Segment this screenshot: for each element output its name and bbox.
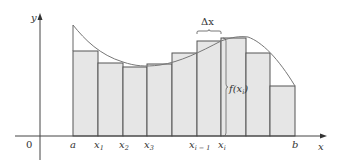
tick-label-x3: x3 bbox=[144, 139, 154, 152]
origin-label: 0 bbox=[26, 139, 32, 150]
riemann-rectangle-4 bbox=[147, 64, 172, 136]
riemann-rectangle-2 bbox=[98, 63, 123, 136]
riemann-rectangles bbox=[73, 38, 295, 136]
x-axis-label: x bbox=[318, 141, 324, 152]
tick-label-x-i: xi bbox=[218, 139, 226, 152]
tick-label-b: b bbox=[292, 139, 298, 150]
delta-x-label: Δx bbox=[201, 16, 214, 27]
riemann-sum-figure: y x 0 a x1 x2 x3 xi − 1 xi b Δx f(xi) bbox=[0, 0, 343, 163]
tick-label-x1: x1 bbox=[94, 139, 104, 152]
tick-label-a: a bbox=[70, 139, 76, 150]
delta-x-brace bbox=[197, 30, 221, 35]
riemann-rectangle-5 bbox=[172, 53, 197, 136]
y-axis-arrow-icon bbox=[38, 13, 43, 20]
y-axis-label: y bbox=[30, 12, 37, 23]
riemann-rectangle-3 bbox=[123, 67, 147, 136]
x-axis-arrow-icon bbox=[320, 134, 327, 139]
riemann-rectangle-9 bbox=[270, 86, 295, 136]
riemann-rectangle-6 bbox=[197, 41, 221, 136]
tick-label-x2: x2 bbox=[119, 139, 129, 152]
riemann-rectangle-8 bbox=[246, 53, 270, 136]
riemann-rectangle-1 bbox=[73, 51, 98, 136]
tick-label-x-i-minus-1: xi − 1 bbox=[189, 139, 210, 152]
